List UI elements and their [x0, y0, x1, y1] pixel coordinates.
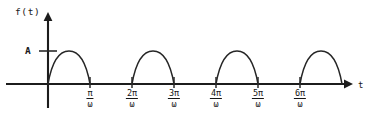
tick-label: 3π ω — [168, 89, 180, 109]
tick-label: 6π ω — [294, 89, 306, 109]
pulse-4 — [300, 51, 342, 84]
tick-label: 2π ω — [126, 89, 138, 109]
waveform-figure: f(t) t A π ω 2π ω 3π ω 4π ω 5π ω 6π ω — [0, 0, 379, 126]
x-axis-ticks — [90, 77, 300, 88]
pulse-3 — [216, 51, 258, 84]
tick-label: π ω — [86, 89, 93, 109]
plot-canvas — [0, 0, 379, 126]
amplitude-label: A — [25, 45, 31, 56]
tick-label: 4π ω — [210, 89, 222, 109]
waveform-curve — [48, 51, 342, 84]
pulse-1 — [48, 51, 90, 84]
arrow-right-icon — [344, 80, 353, 89]
pulse-2 — [132, 51, 174, 84]
arrow-up-icon — [44, 12, 53, 21]
tick-label: 5π ω — [252, 89, 264, 109]
y-axis-label: f(t) — [15, 6, 40, 17]
x-axis-label: t — [358, 80, 364, 90]
